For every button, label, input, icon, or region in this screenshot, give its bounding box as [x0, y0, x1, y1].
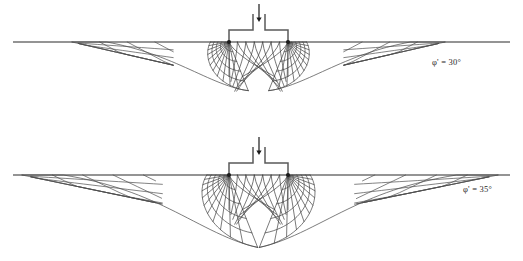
fan-center-node-right — [286, 173, 290, 177]
central-wedge-zone — [229, 175, 288, 224]
wedge-slip-curve — [237, 175, 276, 214]
figure-canvas: φ' = 30° φ' = 35° — [0, 0, 523, 261]
fan-radial-line — [259, 175, 288, 247]
passive-mesh-line — [31, 177, 163, 204]
phi-label-bottom: φ' = 35° — [463, 184, 492, 194]
passive-mesh-line — [83, 175, 156, 203]
outer-failure-surface — [22, 175, 258, 247]
fan-center-node-left — [227, 173, 231, 177]
passive-rankine-zone-left — [22, 175, 258, 247]
fan-radial-line — [229, 175, 258, 247]
radial-shear-fan-left — [202, 175, 258, 247]
fan-radial-line — [274, 175, 288, 243]
fan-radial-line — [229, 175, 243, 243]
radial-shear-fan-right — [259, 175, 315, 247]
load-arrow-head — [256, 151, 261, 156]
passive-mesh-line — [143, 175, 155, 181]
slip-line-field-panel-bottom — [0, 0, 523, 261]
passive-mesh-line — [31, 177, 163, 194]
wedge-slip-curve — [240, 175, 279, 214]
phi-label-top: φ' = 30° — [432, 57, 461, 67]
passive-mesh-line — [363, 175, 437, 203]
passive-mesh-line — [363, 175, 375, 181]
